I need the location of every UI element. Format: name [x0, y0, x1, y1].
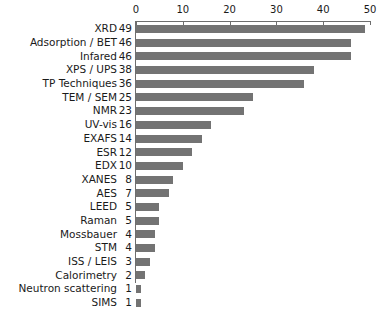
bar-track — [136, 296, 370, 309]
bar — [136, 258, 150, 266]
value-label: 14 — [115, 133, 132, 144]
bar-track — [136, 268, 370, 282]
bar-track — [136, 241, 370, 255]
value-label: 23 — [115, 105, 132, 116]
bar-track — [136, 145, 370, 159]
bar-track — [136, 36, 370, 50]
value-label: 3 — [115, 256, 132, 267]
value-label: 25 — [115, 92, 132, 103]
bar-row: Raman5 — [0, 214, 379, 228]
x-axis-tick-label: 40 — [317, 5, 330, 15]
value-label: 4 — [115, 229, 132, 240]
category-label: SIMS — [92, 297, 118, 308]
bar — [136, 189, 169, 197]
bar — [136, 148, 192, 156]
bar-row: Mossbauer4 — [0, 227, 379, 241]
bar — [136, 25, 365, 33]
bar-track — [136, 214, 370, 228]
bar-row: ESR12 — [0, 145, 379, 159]
bar-row: Neutron scattering1 — [0, 282, 379, 296]
bar-track — [136, 22, 370, 36]
bar-row: XRD49 — [0, 22, 379, 36]
value-label: 8 — [115, 174, 132, 185]
value-label: 7 — [115, 188, 132, 199]
bar-track — [136, 227, 370, 241]
bar-row: Adsorption / BET46 — [0, 36, 379, 50]
bar — [136, 93, 253, 101]
category-label: EDX — [95, 160, 117, 171]
category-label: Mossbauer — [60, 229, 117, 240]
bar-rows: XRD49Adsorption / BET46Infared46XPS / UP… — [0, 22, 379, 309]
bar-row: LEED5 — [0, 200, 379, 214]
bar-row: Infared46 — [0, 49, 379, 63]
value-label: 49 — [115, 23, 132, 34]
bar-track — [136, 186, 370, 200]
bar-row: STM4 — [0, 241, 379, 255]
bar-track — [136, 77, 370, 91]
category-label: Raman — [80, 215, 117, 226]
bar-track — [136, 200, 370, 214]
value-label: 38 — [115, 64, 132, 75]
value-label: 1 — [115, 297, 132, 308]
category-label: TEM / SEM — [62, 92, 117, 103]
bar-track — [136, 282, 370, 296]
bar — [136, 230, 155, 238]
bar-row: EDX10 — [0, 159, 379, 173]
bar-row: EXAFS14 — [0, 132, 379, 146]
category-label: LEED — [90, 201, 117, 212]
value-label: 4 — [115, 242, 132, 253]
bar — [136, 299, 141, 307]
category-label: EXAFS — [83, 133, 117, 144]
value-label: 10 — [115, 160, 132, 171]
value-label: 5 — [115, 215, 132, 226]
bar-row: Calorimetry2 — [0, 268, 379, 282]
bar-track — [136, 90, 370, 104]
bar-row: SIMS1 — [0, 296, 379, 309]
bar-track — [136, 159, 370, 173]
bar — [136, 121, 211, 129]
bar — [136, 244, 155, 252]
x-axis-tick-label: 10 — [176, 5, 189, 15]
x-axis-tick-label: 30 — [270, 5, 283, 15]
bar — [136, 66, 314, 74]
bar-track — [136, 132, 370, 146]
bar-track — [136, 104, 370, 118]
category-label: Neutron scattering — [18, 283, 117, 294]
value-label: 1 — [115, 283, 132, 294]
bar-row: AES7 — [0, 186, 379, 200]
category-label: XANES — [81, 174, 117, 185]
category-label: ESR — [96, 147, 117, 158]
category-label: Adsorption / BET — [30, 37, 117, 48]
category-label: ISS / LEIS — [68, 256, 117, 267]
bar-row: UV-vis16 — [0, 118, 379, 132]
value-label: 12 — [115, 147, 132, 158]
value-label: 46 — [115, 37, 132, 48]
value-label: 2 — [115, 270, 132, 281]
bar-track — [136, 255, 370, 269]
value-label: 46 — [115, 51, 132, 62]
bar-track — [136, 173, 370, 187]
bar-row: TP Techniques36 — [0, 77, 379, 91]
bar — [136, 52, 351, 60]
bar-track — [136, 63, 370, 77]
bar — [136, 80, 304, 88]
x-axis-tick-label: 0 — [133, 5, 139, 15]
bar — [136, 217, 159, 225]
x-axis-tick-label: 50 — [364, 5, 377, 15]
category-label: Calorimetry — [55, 270, 117, 281]
category-label: UV-vis — [85, 119, 117, 130]
x-axis-tick-label: 20 — [223, 5, 236, 15]
category-label: NMR — [93, 105, 117, 116]
bar-row: NMR23 — [0, 104, 379, 118]
bar — [136, 203, 159, 211]
value-label: 36 — [115, 78, 132, 89]
category-label: XPS / UPS — [66, 64, 117, 75]
value-label: 16 — [115, 119, 132, 130]
bar-row: XANES8 — [0, 173, 379, 187]
bar — [136, 162, 183, 170]
bar-track — [136, 49, 370, 63]
bar-row: TEM / SEM25 — [0, 90, 379, 104]
bar-track — [136, 118, 370, 132]
value-label: 5 — [115, 201, 132, 212]
